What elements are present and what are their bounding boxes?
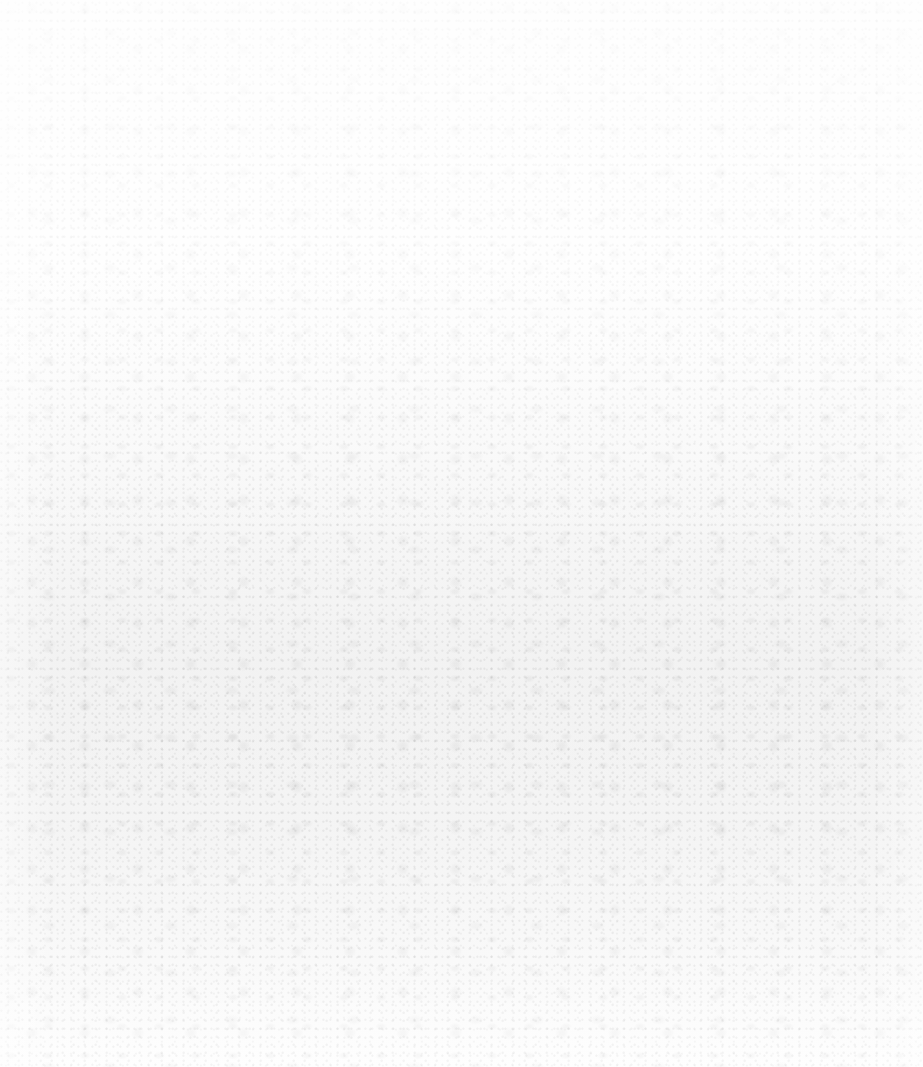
paper-background xyxy=(0,0,923,1067)
texture-edge-fade xyxy=(0,0,923,1067)
